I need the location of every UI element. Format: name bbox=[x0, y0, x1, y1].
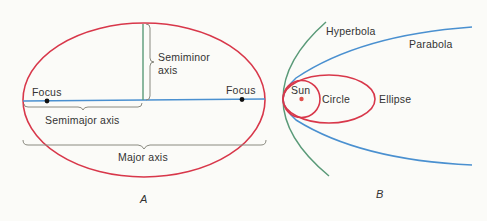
focus-left-dot bbox=[45, 99, 50, 104]
semiminor-label-line2: axis bbox=[158, 64, 177, 76]
circle-label: Circle bbox=[322, 93, 350, 105]
panel-b-caption: B bbox=[376, 188, 383, 200]
ellipse-label: Ellipse bbox=[379, 93, 411, 105]
parabola-label: Parabola bbox=[409, 38, 453, 50]
panel-b: Hyperbola Parabola Sun Circle Ellipse B bbox=[283, 22, 472, 200]
major-axis-label: Major axis bbox=[118, 151, 168, 163]
panel-a-caption: A bbox=[139, 193, 147, 205]
semimajor-label: Semimajor axis bbox=[45, 114, 120, 126]
major-axis-line bbox=[23, 99, 265, 101]
semiminor-brace bbox=[146, 24, 154, 100]
semiminor-label-line1: Semiminor bbox=[158, 51, 210, 63]
semimajor-brace bbox=[24, 103, 142, 110]
focus-right-label: Focus bbox=[226, 84, 256, 96]
focus-right-dot bbox=[240, 97, 245, 102]
sun-label: Sun bbox=[291, 84, 310, 96]
sun-dot bbox=[299, 97, 303, 101]
focus-left-label: Focus bbox=[32, 86, 62, 98]
panel-a: Focus Focus Semiminor axis Semimajor axi… bbox=[23, 23, 266, 205]
orbit-diagram: Focus Focus Semiminor axis Semimajor axi… bbox=[0, 0, 487, 221]
hyperbola-label: Hyperbola bbox=[326, 25, 376, 37]
major-axis-brace bbox=[23, 140, 266, 149]
